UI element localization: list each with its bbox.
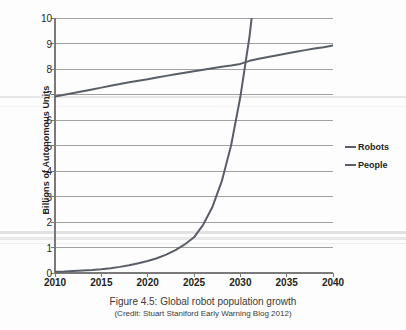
x-axis-tick-labels: 2010201520202025203020352040 (0, 277, 406, 293)
chart-legend: RobotsPeople (345, 139, 405, 175)
x-tick-label: 2030 (218, 277, 262, 288)
legend-line-swatch-icon (345, 164, 356, 166)
x-tick-label: 2035 (265, 277, 309, 288)
y-axis-title: Billions of Autonomous Units (41, 25, 51, 275)
legend-item-people[interactable]: People (345, 157, 405, 172)
x-tick-label: 2040 (311, 277, 355, 288)
caption-title: Figure 4.5: Global robot population grow… (0, 296, 406, 308)
series-line-people (55, 46, 333, 97)
x-tick-label: 2015 (79, 277, 123, 288)
caption-credit: (Credit: Stuart Staniford Early Warning … (0, 308, 406, 319)
x-tick-label: 2020 (126, 277, 170, 288)
y-tick-label: 10 (30, 13, 52, 24)
figure-container: 012345678910 201020152020202520302035204… (0, 0, 406, 330)
legend-item-robots[interactable]: Robots (345, 139, 405, 154)
legend-label: People (358, 160, 388, 170)
series-line-robots (55, 0, 333, 272)
figure-caption: Figure 4.5: Global robot population grow… (0, 296, 406, 319)
legend-label: Robots (358, 142, 389, 152)
x-tick-label: 2010 (33, 277, 77, 288)
legend-line-swatch-icon (345, 146, 356, 148)
x-tick-label: 2025 (172, 277, 216, 288)
